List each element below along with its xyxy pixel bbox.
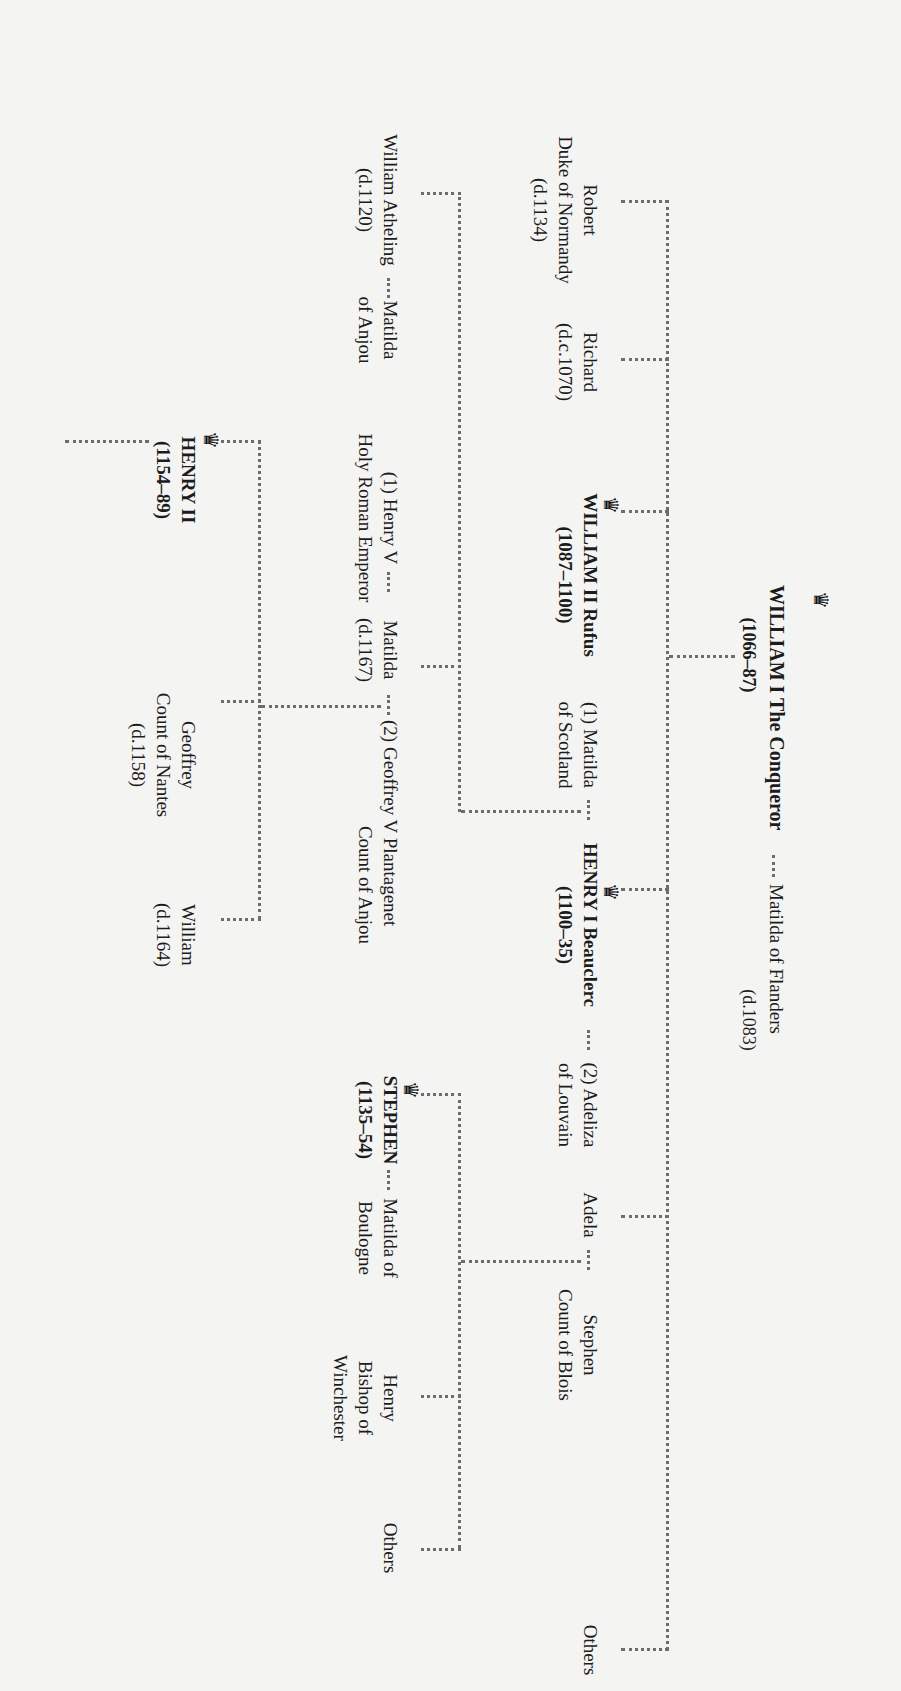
tick: [421, 665, 461, 668]
tick: [421, 1548, 461, 1551]
adeliza-of-louvain: (2) Adeliza of Louvain: [553, 1063, 603, 1148]
crown-icon: ♛: [201, 431, 221, 449]
geoffrey-count-of-nantes: Geoffrey Count of Nantes (d.1158): [126, 693, 201, 818]
marriage-link: [587, 800, 590, 820]
tick: [621, 1215, 669, 1218]
children-bracket: [458, 192, 461, 812]
tick: [621, 358, 669, 361]
william-d1164: William (d.1164): [151, 903, 201, 967]
tick: [621, 1648, 669, 1651]
tick: [621, 510, 669, 513]
william-i-dates: (1066–87): [736, 618, 761, 693]
matilda-flanders-dates: (d.1083): [736, 989, 761, 1051]
marriage-link: [387, 572, 390, 592]
robert: Robert Duke of Normandy (d.1134): [528, 136, 603, 284]
matilda-of-boulogne: Matilda of Boulogne: [353, 1198, 403, 1278]
crown-icon: ♛: [401, 1081, 421, 1099]
others-gen2: Others: [578, 1625, 603, 1676]
connector: [261, 705, 381, 708]
marriage-link: [772, 855, 775, 877]
marriage-link: [387, 1170, 390, 1190]
tick: [621, 888, 669, 891]
tick: [421, 1395, 461, 1398]
marriage-link: [587, 1250, 590, 1270]
geoffrey-v-title: Count of Anjou: [353, 826, 378, 944]
connector: [461, 1260, 581, 1263]
children-bracket: [258, 440, 261, 920]
children-bracket: [666, 200, 669, 1650]
tick: [221, 700, 261, 703]
tick: [421, 192, 461, 195]
tick: [421, 1093, 461, 1096]
stephen-count-of-blois: Stephen Count of Blois: [553, 1289, 603, 1401]
tick: [221, 440, 261, 443]
crown-icon: ♛: [811, 591, 831, 609]
matilda-of-flanders: Matilda of Flanders: [764, 884, 789, 1034]
connector: [461, 810, 581, 813]
tick: [621, 200, 669, 203]
geoffrey-v-plantagenet: (2) Geoffrey V Plantagenet: [378, 720, 403, 926]
tick: [221, 918, 261, 921]
william-i: WILLIAM I The Conqueror: [764, 585, 789, 830]
crown-icon: ♛: [601, 496, 621, 514]
marriage-link: [387, 695, 390, 715]
adela: Adela: [578, 1192, 603, 1237]
matilda-of-scotland: (1) Matilda of Scotland: [553, 701, 603, 788]
family-tree: ♛ WILLIAM I The Conqueror (1066–87) Mati…: [0, 0, 901, 1691]
marriage-link: [587, 1030, 590, 1050]
descendant-line: [65, 440, 149, 443]
connector: [669, 655, 735, 658]
richard: Richard (d.c.1070): [553, 323, 603, 401]
henry-bishop-of-winchester: Henry Bishop of Winchester: [328, 1355, 403, 1441]
matilda-of-anjou: Matilda of Anjou: [353, 296, 403, 363]
henry-ii: HENRY II (1154–89): [151, 437, 201, 524]
marriage-link: [387, 278, 390, 298]
others-gen3: Others: [378, 1523, 403, 1574]
william-ii-rufus: WILLIAM II Rufus (1087–1100): [553, 493, 603, 657]
stephen-king: STEPHEN (1135–54): [353, 1076, 403, 1165]
children-bracket: [458, 1093, 461, 1548]
henry-i-beauclerc: HENRY I Beauclerc (1100–35): [553, 843, 603, 1007]
henry-v: (1) Henry V Holy Roman Emperor: [353, 434, 403, 603]
matilda-empress: Matilda (d.1167): [353, 618, 403, 682]
william-atheling: William Atheling (d.1120): [353, 134, 403, 266]
crown-icon: ♛: [601, 883, 621, 901]
